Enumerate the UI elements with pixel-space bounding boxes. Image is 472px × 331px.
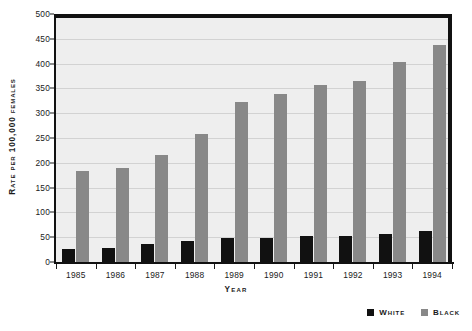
bar-group <box>175 14 215 262</box>
x-axis-tick-label: 1990 <box>264 270 283 280</box>
x-axis-title: Year <box>0 285 472 294</box>
y-axis-tick-labels: 500450400350300250200150100500 <box>22 0 54 280</box>
bar-white-1985 <box>62 249 75 262</box>
bar-black-1986 <box>116 168 129 262</box>
y-axis-tick-label: 450 <box>35 34 50 44</box>
bar-black-1990 <box>274 94 287 262</box>
x-axis-tick-mark <box>294 264 295 269</box>
x-axis-tick-mark <box>56 264 57 269</box>
x-axis-tick-label: 1989 <box>224 270 243 280</box>
legend-swatch-icon <box>367 309 374 316</box>
legend: WhiteBlack <box>367 308 460 317</box>
bar-black-1987 <box>155 155 168 262</box>
bar-group <box>96 14 136 262</box>
bar-black-1992 <box>353 81 366 262</box>
y-axis-tick-label: 400 <box>35 59 50 69</box>
bar-black-1993 <box>393 62 406 262</box>
bar-black-1991 <box>314 85 327 262</box>
bar-group <box>56 14 96 262</box>
bar-black-1988 <box>195 134 208 262</box>
legend-entry-black[interactable]: Black <box>421 308 460 317</box>
bar-white-1988 <box>181 241 194 262</box>
bar-group <box>412 14 452 262</box>
y-axis-tick-label: 100 <box>35 207 50 217</box>
x-axis-tick-mark <box>175 264 176 269</box>
bar-chart: Rate per 100,000 females 500450400350300… <box>0 0 472 331</box>
x-axis-tick-mark <box>452 264 453 269</box>
y-axis-tick-label: 300 <box>35 108 50 118</box>
bar-white-1987 <box>141 244 154 262</box>
y-axis-tick-label: 150 <box>35 183 50 193</box>
bar-black-1985 <box>76 171 89 262</box>
x-axis-tick-label: 1987 <box>145 270 164 280</box>
legend-label: White <box>379 308 405 317</box>
y-axis-tick-label: 250 <box>35 133 50 143</box>
x-axis-tick-mark <box>135 264 136 269</box>
x-axis-tick-mark <box>254 264 255 269</box>
x-axis-tick-label: 1991 <box>304 270 323 280</box>
x-axis-tick-labels: 1985198619871988198919901991199219931994 <box>56 264 452 282</box>
x-axis-tick-label: 1994 <box>422 270 441 280</box>
bar-white-1989 <box>221 238 234 262</box>
bar-white-1990 <box>260 238 273 262</box>
bar-white-1991 <box>300 236 313 262</box>
y-axis-tick-label: 500 <box>35 9 50 19</box>
bar-white-1986 <box>102 248 115 262</box>
y-axis-tick-label: 350 <box>35 83 50 93</box>
y-axis-title-text: Rate per 100,000 females <box>8 78 17 195</box>
x-axis-tick-label: 1988 <box>185 270 204 280</box>
y-axis-title: Rate per 100,000 females <box>0 0 24 272</box>
legend-label: Black <box>433 308 460 317</box>
legend-entry-white[interactable]: White <box>367 308 405 317</box>
bar-group <box>214 14 254 262</box>
y-axis-tick-label: 50 <box>40 232 50 242</box>
bar-black-1989 <box>235 102 248 262</box>
bar-group <box>333 14 373 262</box>
x-axis-tick-label: 1992 <box>343 270 362 280</box>
y-axis-tick-label: 200 <box>35 158 50 168</box>
bar-group <box>373 14 413 262</box>
bar-white-1993 <box>379 234 392 262</box>
x-axis-tick-mark <box>333 264 334 269</box>
bar-group <box>254 14 294 262</box>
legend-swatch-icon <box>421 309 428 316</box>
bars-layer <box>56 14 452 262</box>
x-axis-tick-mark <box>412 264 413 269</box>
bar-white-1994 <box>419 231 432 262</box>
x-axis-tick-mark <box>214 264 215 269</box>
bar-group <box>294 14 334 262</box>
x-axis-tick-label: 1986 <box>106 270 125 280</box>
bar-black-1994 <box>433 45 446 262</box>
x-axis-tick-label: 1993 <box>383 270 402 280</box>
x-axis-tick-label: 1985 <box>66 270 85 280</box>
x-axis-tick-mark <box>373 264 374 269</box>
x-axis-tick-mark <box>96 264 97 269</box>
bar-white-1992 <box>339 236 352 262</box>
bar-group <box>135 14 175 262</box>
